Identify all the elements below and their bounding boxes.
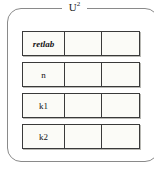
row-value-cell-2	[102, 63, 139, 86]
group-legend-label: U2	[62, 0, 87, 15]
row-label-cell: k2	[23, 125, 65, 148]
record-table: retlab n k1 k2	[22, 31, 140, 149]
row-value-cell-1	[65, 94, 102, 117]
diagram-canvas: U2 retlab n k1 k2	[0, 0, 154, 174]
table-row[interactable]: k2	[22, 124, 140, 149]
row-value-cell-1	[65, 32, 102, 55]
table-row[interactable]: n	[22, 62, 140, 87]
row-label-cell: k1	[23, 94, 65, 117]
row-value-cell-1	[65, 63, 102, 86]
row-label-cell: n	[23, 63, 65, 86]
row-value-cell-2	[102, 32, 139, 55]
table-row[interactable]: k1	[22, 93, 140, 118]
table-row[interactable]: retlab	[22, 31, 140, 56]
row-label-cell: retlab	[23, 32, 65, 55]
row-value-cell-1	[65, 125, 102, 148]
row-value-cell-2	[102, 125, 139, 148]
group-legend-superscript: 2	[77, 0, 81, 8]
group-legend-base: U	[69, 1, 77, 13]
row-value-cell-2	[102, 94, 139, 117]
